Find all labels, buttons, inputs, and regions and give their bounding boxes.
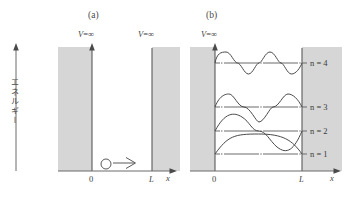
- x-width-label: L: [299, 174, 304, 184]
- level-n4: [215, 52, 307, 74]
- wavefunction-n2: [215, 114, 302, 150]
- level-dot: [299, 106, 300, 107]
- wavefunction-n3: [215, 94, 302, 122]
- level-label-n3: n = 3: [310, 102, 328, 112]
- x-width-label: L: [149, 174, 154, 184]
- x-origin-label: 0: [212, 174, 216, 184]
- level-dot: [299, 62, 300, 63]
- level-dot: [299, 153, 300, 154]
- motion-arrow-head-top: [126, 158, 136, 164]
- level-n2: [215, 114, 307, 150]
- figure-container: (a) エネルギー VV=∞=∞: [0, 0, 349, 202]
- level-dot: [260, 153, 261, 154]
- wavefunction-n1: [215, 134, 302, 154]
- level-label-n4: n = 4: [310, 58, 328, 68]
- level-dot: [299, 130, 300, 131]
- left-wall-region: [190, 47, 215, 171]
- right-wall-region: [152, 47, 180, 171]
- x-origin-label: 0: [89, 174, 93, 184]
- wall-right-potential-label: VV=∞=∞: [138, 29, 154, 39]
- level-label-n1: n = 1: [310, 149, 328, 159]
- energy-axis-label: エネルギー: [9, 78, 17, 126]
- panel-a: (a) エネルギー VV=∞=∞: [0, 0, 180, 202]
- energy-axis-arrowhead: [13, 43, 19, 51]
- level-dot: [221, 62, 222, 63]
- level-dot: [260, 106, 261, 107]
- wall-left-potential-label: VV=∞=∞: [78, 29, 94, 39]
- level-dot: [221, 130, 222, 131]
- x-axis-label: x: [330, 173, 334, 183]
- wall-potential-label: VV=∞=∞: [201, 29, 217, 39]
- level-dot: [221, 153, 222, 154]
- panel-b: (b): [180, 0, 349, 202]
- left-wall-region: [58, 47, 92, 171]
- wall-left-arrowhead: [89, 43, 95, 51]
- level-label-n2: n = 2: [310, 126, 328, 136]
- wall-left-arrowhead: [212, 43, 218, 51]
- x-axis-label: x: [166, 173, 170, 183]
- level-n1: [215, 134, 307, 155]
- motion-arrow-head-bottom: [126, 163, 136, 169]
- level-dot: [221, 106, 222, 107]
- level-n3: [215, 94, 307, 122]
- circle-particle-icon: [101, 159, 111, 169]
